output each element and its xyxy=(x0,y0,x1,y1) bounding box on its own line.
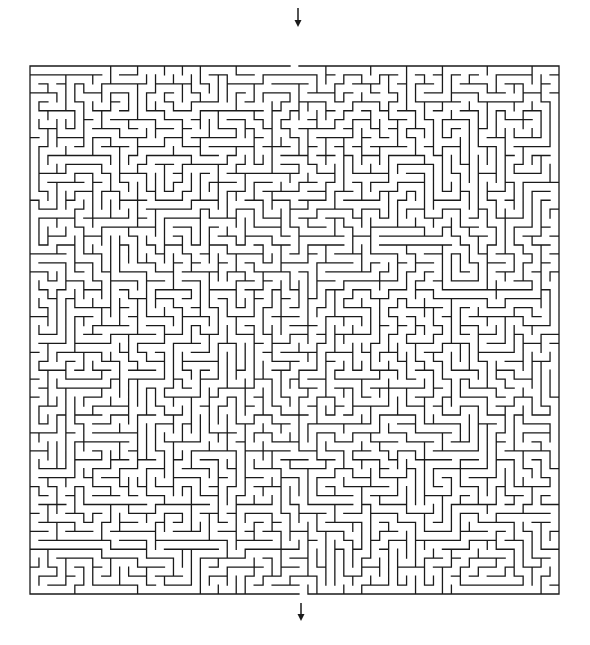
maze-board[interactable] xyxy=(0,0,590,645)
exit-arrow-icon xyxy=(298,603,305,621)
entrance-arrow-icon xyxy=(295,8,302,27)
maze-walls xyxy=(30,66,559,594)
